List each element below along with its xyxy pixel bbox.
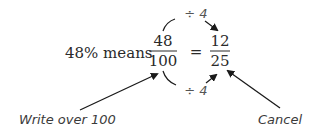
bottom-arc [163, 71, 176, 85]
bottom-arrow-icon [206, 75, 216, 83]
left-fraction: 48 100 [149, 32, 178, 70]
left-denominator: 100 [149, 52, 178, 70]
top-arc [163, 19, 175, 31]
bottom-divide-label: ÷ 4 [184, 83, 207, 98]
right-numerator: 12 [210, 32, 229, 50]
equals-sign: = [190, 43, 203, 61]
cancel-label: Cancel [258, 112, 302, 127]
top-arrow-icon [205, 21, 217, 30]
left-numerator: 48 [153, 32, 172, 50]
prefix-text: 48% means [65, 44, 153, 62]
right-fraction: 12 25 [210, 32, 230, 70]
write-over-100-label: Write over 100 [19, 112, 116, 127]
cancel-arrow-icon [228, 71, 280, 108]
percent-to-fraction-diagram: 48% means 48 100 = 12 25 ÷ 4 ÷ 4 W [0, 0, 322, 135]
write-over-100-arrow-icon [80, 74, 157, 110]
top-divide-label: ÷ 4 [184, 6, 207, 21]
right-denominator: 25 [210, 52, 229, 70]
